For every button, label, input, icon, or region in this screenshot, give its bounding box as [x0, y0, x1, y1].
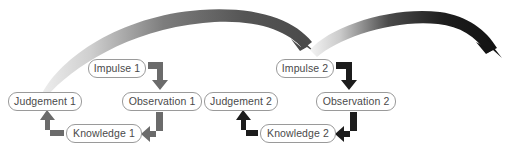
node-observation-2-label: Observation 2	[322, 96, 391, 107]
node-judgement-1-label: Judgement 1	[13, 96, 77, 107]
node-impulse-2-label: Impulse 2	[281, 63, 329, 74]
transition-arc-cycle2-to-next	[310, 11, 502, 58]
node-knowledge-2-label: Knowledge 2	[266, 128, 330, 139]
connector-observation-2-to-knowledge-2	[335, 112, 357, 142]
transition-arc-cycle1-to-cycle2	[42, 9, 318, 96]
arc1-ribbon	[42, 9, 312, 96]
node-judgement-2-label: Judgement 2	[209, 96, 273, 107]
node-judgement-2[interactable]: Judgement 2	[204, 92, 278, 111]
node-knowledge-1[interactable]: Knowledge 1	[66, 124, 142, 143]
arc2-ribbon	[310, 11, 497, 57]
node-knowledge-1-label: Knowledge 1	[72, 128, 136, 139]
node-observation-1[interactable]: Observation 1	[122, 92, 202, 111]
connector-impulse-2-to-observation-2	[336, 62, 357, 90]
connector-observation-1-to-knowledge-1	[141, 112, 163, 142]
node-impulse-1[interactable]: Impulse 1	[88, 59, 146, 78]
connector-knowledge-2-to-judgement-2	[236, 110, 258, 136]
node-impulse-2[interactable]: Impulse 2	[276, 59, 334, 78]
node-observation-2[interactable]: Observation 2	[316, 92, 396, 111]
node-judgement-1[interactable]: Judgement 1	[8, 92, 82, 111]
diagram-canvas: Impulse 1 Judgement 1 Observation 1 Know…	[0, 0, 510, 160]
connector-knowledge-1-to-judgement-1	[40, 110, 64, 136]
connector-impulse-1-to-observation-1	[148, 62, 168, 90]
node-impulse-1-label: Impulse 1	[93, 63, 141, 74]
node-knowledge-2[interactable]: Knowledge 2	[260, 124, 336, 143]
node-observation-1-label: Observation 1	[128, 96, 197, 107]
